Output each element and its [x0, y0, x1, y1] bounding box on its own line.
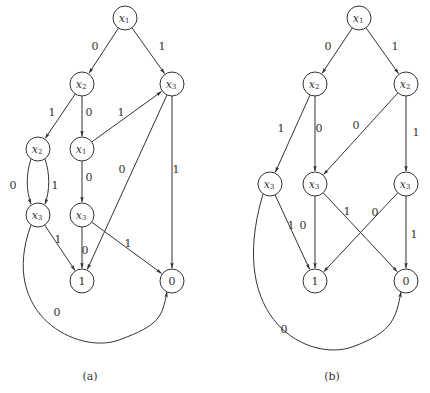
edge-b_x3L-to-b_T1 [275, 195, 309, 269]
variable-node-x3: x3 [70, 203, 94, 227]
edge-a_x2LL-to-a_x3L [27, 159, 31, 204]
edge-label: 1 [413, 126, 420, 139]
edge-label: 0 [86, 106, 93, 119]
terminal-label: 1 [312, 275, 319, 288]
edge-label: 0 [300, 219, 307, 232]
edge-label: 0 [10, 179, 17, 192]
edge-label: 0 [325, 40, 332, 53]
edge-label: 1 [159, 40, 166, 53]
edge-label: 1 [288, 219, 295, 232]
terminal-node-1: 1 [70, 269, 94, 293]
terminal-node-1: 1 [303, 269, 327, 293]
edge-label: 0 [353, 119, 360, 132]
graph-a: 01101010011010x1x2x3x2x1x3x310(a) [10, 6, 185, 383]
variable-node-x3: x3 [303, 172, 327, 196]
edge-label: 0 [82, 244, 89, 257]
edge-label: 0 [281, 323, 288, 336]
edge-b_x3L-to-b_T0 [253, 194, 401, 350]
edge-label: 1 [392, 40, 399, 53]
edge-a_x2LL-to-a_x3L [45, 159, 49, 204]
edge-label: 0 [86, 171, 93, 184]
edge-a_x3L-to-a_T1 [45, 225, 75, 270]
terminal-label: 0 [169, 275, 176, 288]
variable-node-x1: x1 [70, 137, 94, 161]
edge-label: 0 [316, 122, 323, 135]
variable-node-x2: x2 [70, 72, 94, 96]
variable-node-x3: x3 [26, 203, 50, 227]
edge-label: 1 [173, 163, 180, 176]
figure-caption-a: (a) [82, 370, 97, 383]
variable-node-x2: x2 [26, 137, 50, 161]
edge-b_x2R-to-b_x3M [324, 93, 398, 175]
edge-label: 1 [55, 233, 62, 246]
terminal-node-0: 0 [394, 269, 418, 293]
variable-node-x1: x1 [113, 6, 137, 30]
bdd-diagram-canvas: 01101010011010x1x2x3x2x1x3x310(a) 011001… [0, 0, 430, 393]
variable-node-x2: x2 [394, 72, 418, 96]
edge-label: 0 [54, 306, 61, 319]
edge-label: 1 [118, 106, 125, 119]
edge-label: 1 [49, 106, 56, 119]
edge-label: 0 [119, 163, 126, 176]
variable-node-x3: x3 [394, 172, 418, 196]
variable-node-x2: x2 [303, 72, 327, 96]
variable-node-x3: x3 [160, 72, 184, 96]
terminal-label: 1 [79, 275, 86, 288]
edge-label: 1 [411, 228, 418, 241]
edge-label: 0 [92, 40, 99, 53]
edge-label: 1 [52, 179, 59, 192]
edge-label: 1 [125, 237, 132, 250]
terminal-label: 0 [403, 275, 410, 288]
terminal-node-0: 0 [160, 269, 184, 293]
figure-caption-b: (b) [324, 370, 340, 383]
edge-label: 0 [372, 206, 379, 219]
graph-b: 011001101010x1x2x2x3x3x310(b) [253, 6, 419, 383]
edge-a_x1M-to-a_x3R [92, 92, 162, 142]
edge-a_x3L-to-a_T0 [23, 225, 167, 343]
edge-label: 1 [344, 205, 351, 218]
variable-node-x3: x3 [258, 172, 282, 196]
variable-node-x1: x1 [347, 6, 371, 30]
edge-label: 1 [278, 122, 285, 135]
